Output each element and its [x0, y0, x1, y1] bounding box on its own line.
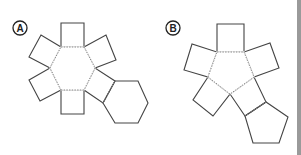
lateral-face: [61, 90, 84, 114]
page-edge-bar: [297, 0, 301, 155]
base-hexagon: [50, 47, 95, 90]
lateral-face: [61, 23, 84, 47]
label-a: A: [13, 21, 27, 35]
figure-b-pentagonal-prism-net: [184, 24, 288, 143]
second-base-pentagon: [245, 102, 288, 143]
svg-text:A: A: [16, 23, 23, 34]
lateral-face: [217, 24, 244, 52]
label-b: B: [166, 21, 180, 35]
svg-text:B: B: [169, 23, 176, 34]
figure-labels: A B: [13, 21, 180, 35]
figure-a-hexagonal-prism-net: [29, 23, 148, 123]
prism-nets-diagram: A B: [0, 0, 301, 155]
second-base-hexagon: [103, 81, 148, 123]
